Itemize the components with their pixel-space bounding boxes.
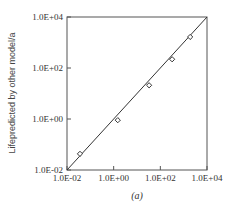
- x-tick-label: 1.0E+00: [98, 173, 129, 183]
- x-tick-label: 1.0E+04: [192, 173, 223, 183]
- diamond-marker-icon: [188, 34, 193, 39]
- y-tick-label: 1.0E-02: [34, 165, 63, 175]
- one-to-one-line: [67, 17, 207, 170]
- reference-line: [67, 17, 207, 170]
- x-tick-labels: 1.0E-021.0E+001.0E+021.0E+04: [53, 173, 223, 183]
- diamond-marker-icon: [115, 118, 120, 123]
- figure-caption: (a): [131, 190, 143, 202]
- chart: 1.0E-021.0E+001.0E+021.0E+04 1.0E-021.0E…: [0, 0, 232, 210]
- y-tick-label: 1.0E+04: [32, 12, 63, 22]
- y-tick-labels: 1.0E-021.0E+001.0E+021.0E+04: [32, 12, 63, 175]
- y-axis-label: Lifepredicted by other model/a: [7, 32, 17, 153]
- diamond-marker-icon: [77, 151, 82, 156]
- diamond-marker-icon: [146, 83, 151, 88]
- y-tick-label: 1.0E+00: [32, 114, 63, 124]
- x-tick-label: 1.0E+02: [145, 173, 176, 183]
- y-tick-label: 1.0E+02: [32, 63, 63, 73]
